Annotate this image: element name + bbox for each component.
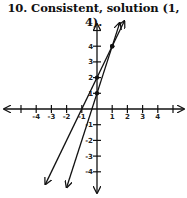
svg-text:-2: -2: [85, 137, 93, 145]
svg-text:2: 2: [88, 74, 93, 82]
svg-text:4: 4: [155, 113, 160, 121]
svg-text:-4: -4: [32, 113, 40, 121]
point-marker: [110, 44, 114, 48]
series-lines: [45, 21, 124, 187]
point-marker: [95, 91, 99, 95]
chart-plot: -4-3-2-11234-4-3-2-11234: [0, 0, 187, 198]
svg-text:3: 3: [140, 113, 145, 121]
svg-text:1: 1: [110, 113, 115, 121]
svg-text:-2: -2: [63, 113, 71, 121]
svg-text:-3: -3: [48, 113, 56, 121]
point-marker: [95, 75, 99, 79]
svg-text:-3: -3: [85, 153, 93, 161]
svg-text:-4: -4: [85, 168, 93, 176]
svg-text:3: 3: [88, 58, 93, 66]
svg-text:4: 4: [88, 43, 93, 51]
svg-text:2: 2: [125, 113, 130, 121]
